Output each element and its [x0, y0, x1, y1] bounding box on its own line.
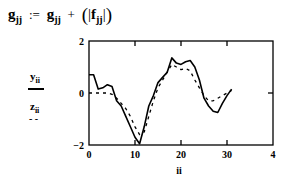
x-axis-label: ii: [176, 165, 182, 176]
y-tick-label: 0: [79, 88, 84, 99]
x-tick-label: 20: [176, 149, 186, 160]
y-tick-label: −2: [73, 140, 84, 151]
x-tick-label: 0: [87, 149, 92, 160]
series-z-dashed-line: [89, 64, 232, 134]
x-tick-label: 10: [130, 149, 140, 160]
plot-frame: [89, 41, 273, 145]
y-tick-label: 2: [79, 36, 84, 47]
x-tick-label: 30: [222, 149, 232, 160]
x-tick-label: 4: [271, 149, 276, 160]
series-y-solid-line: [89, 58, 232, 144]
plot: 0102030420−2ii: [0, 0, 291, 180]
